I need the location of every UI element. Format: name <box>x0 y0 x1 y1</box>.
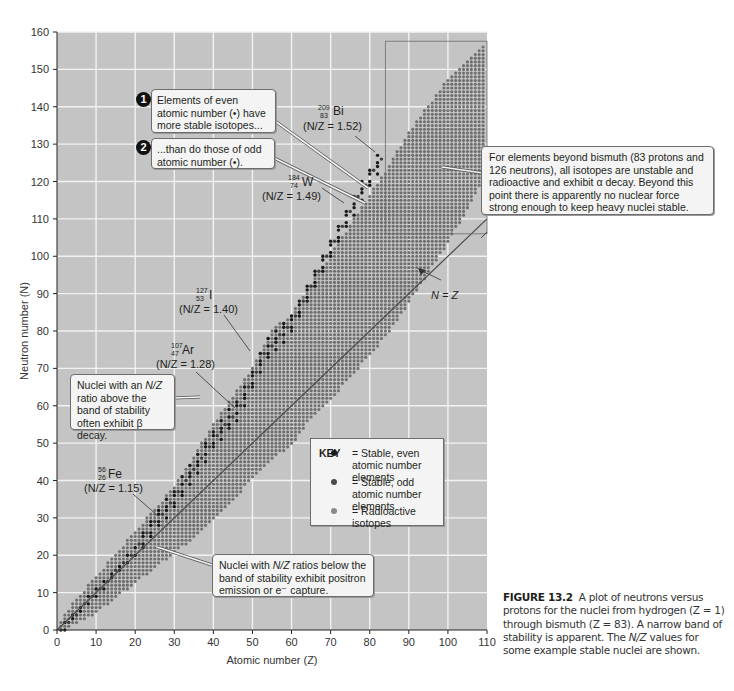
y-tick-label: 100 <box>31 250 49 262</box>
x-tick-label: 90 <box>403 636 415 648</box>
y-tick-label: 80 <box>37 325 49 337</box>
x-tick-label: 10 <box>90 636 102 648</box>
positron-text-nz: N/Z <box>273 559 290 571</box>
y-tick-label: 120 <box>31 176 49 188</box>
beta-decay-callout: Nuclei with an N/Z ratio above the band … <box>70 374 175 430</box>
positron-callout: Nuclei with N/Z ratios below the band of… <box>212 554 374 597</box>
radioactive-dot-icon <box>331 508 337 514</box>
y-tick-label: 20 <box>37 549 49 561</box>
x-tick-label: 100 <box>439 636 457 648</box>
isotope-label-bi: 209 83 Bi (N/Z = 1.52) <box>303 104 383 134</box>
x-tick-label: 110 <box>478 636 496 648</box>
y-tick-label: 50 <box>37 437 49 449</box>
y-tick-label: 130 <box>31 138 49 150</box>
beta-text-nz: N/Z <box>145 379 162 391</box>
x-tick-label: 60 <box>285 636 297 648</box>
x-tick-label: 50 <box>246 636 258 648</box>
y-tick-label: 60 <box>37 400 49 412</box>
isotope-label-w: 184 74 W (N/Z = 1.49) <box>262 174 342 204</box>
odd-elements-callout: ...than do those of odd atomic number (•… <box>151 138 275 169</box>
y-tick-label: 90 <box>37 288 49 300</box>
y-tick-label: 160 <box>31 26 49 38</box>
n-equals-z-label: N = Z <box>431 289 458 301</box>
legend-label: = Radioactive isotopes <box>352 505 416 529</box>
beta-text-1: Nuclei with an <box>77 379 145 391</box>
callout-number-1: 1 <box>136 92 151 107</box>
y-tick-label: 140 <box>31 101 49 113</box>
x-tick-label: 20 <box>129 636 141 648</box>
legend-title: KEY <box>319 447 341 459</box>
legend: KEY = Stable, even atomic number element… <box>310 438 444 526</box>
legend-item-radioactive: = Radioactive isotopes <box>352 505 444 529</box>
y-axis-title: Neutron number (N) <box>18 282 30 380</box>
y-tick-label: 30 <box>37 512 49 524</box>
isotope-label-fe: 56 26 Fe (N/Z = 1.15) <box>84 466 164 496</box>
x-tick-label: 80 <box>364 636 376 648</box>
x-tick-label: 70 <box>325 636 337 648</box>
figure-caption: FIGURE 13.2 A plot of neutrons versus pr… <box>503 591 728 657</box>
stable-odd-dot-icon <box>331 479 337 485</box>
x-axis-title: Atomic number (Z) <box>226 654 317 666</box>
callout-number-2: 2 <box>136 140 151 155</box>
x-tick-label: 0 <box>54 636 60 648</box>
y-tick-label: 150 <box>31 63 49 75</box>
caption-nz: N/Z <box>629 631 647 643</box>
positron-text-1: Nuclei with <box>219 559 273 571</box>
x-tick-label: 30 <box>168 636 180 648</box>
isotope-label-ar: 107 47 Ar (N/Z = 1.28) <box>156 342 236 372</box>
y-tick-label: 110 <box>31 213 49 225</box>
y-tick-label: 0 <box>43 624 49 636</box>
x-tick-label: 40 <box>207 636 219 648</box>
caption-label: FIGURE 13.2 <box>503 591 573 603</box>
y-tick-label: 10 <box>37 587 49 599</box>
y-tick-label: 40 <box>37 475 49 487</box>
beyond-bismuth-callout: For elements beyond bismuth (83 protons … <box>481 146 714 215</box>
even-elements-callout: Elements of even atomic number (•) have … <box>151 89 276 133</box>
stable-even-dot-icon <box>331 450 337 456</box>
isotope-label-i: 127 53 I (N/Z = 1.40) <box>179 287 259 317</box>
y-tick-label: 70 <box>37 362 49 374</box>
